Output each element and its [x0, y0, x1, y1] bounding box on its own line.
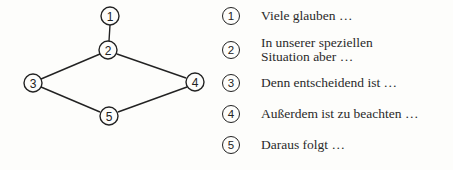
- legend-text: Viele glauben …: [261, 9, 352, 23]
- graph-node-4: 4: [186, 73, 204, 91]
- legend-item-5: 5 Daraus folgt …: [222, 136, 345, 154]
- node-label: 3: [30, 77, 37, 91]
- node-label: 1: [107, 10, 114, 24]
- legend: 1 Viele glauben … 2 In unserer spezielle…: [222, 0, 453, 170]
- graph-node-5: 5: [100, 107, 118, 125]
- legend-item-2: 2 In unserer speziellen Situation aber …: [222, 36, 373, 64]
- legend-number: 4: [222, 105, 240, 123]
- legend-number: 1: [222, 7, 240, 25]
- edge-2-4: [117, 54, 186, 78]
- legend-item-1: 1 Viele glauben …: [222, 7, 352, 25]
- legend-line: In unserer speziellen: [261, 36, 373, 50]
- node-label: 2: [105, 44, 112, 58]
- node-label: 4: [192, 76, 199, 90]
- legend-line: Außerdem ist zu beachten …: [261, 107, 418, 121]
- legend-item-4: 4 Außerdem ist zu beachten …: [222, 105, 418, 123]
- legend-text: Denn entscheidend ist …: [261, 76, 397, 90]
- edge-3-5: [41, 87, 100, 112]
- edge-2-3: [41, 54, 100, 79]
- legend-item-3: 3 Denn entscheidend ist …: [222, 74, 397, 92]
- legend-line: Daraus folgt …: [261, 138, 345, 152]
- legend-line: Situation aber …: [261, 50, 373, 64]
- legend-text: Außerdem ist zu beachten …: [261, 107, 418, 121]
- legend-line: Denn entscheidend ist …: [261, 76, 397, 90]
- node-label: 5: [106, 110, 113, 124]
- graph-node-1: 1: [101, 7, 119, 25]
- legend-line: Viele glauben …: [261, 9, 352, 23]
- legend-number: 3: [222, 74, 240, 92]
- legend-text: In unserer speziellen Situation aber …: [261, 36, 373, 64]
- graph-edges: [41, 25, 187, 112]
- graph-node-3: 3: [24, 74, 42, 92]
- legend-number: 2: [222, 41, 240, 59]
- edge-1-2: [109, 25, 110, 41]
- argument-graph: 1 2 3 4 5: [0, 0, 222, 170]
- legend-text: Daraus folgt …: [261, 138, 345, 152]
- legend-number: 5: [222, 136, 240, 154]
- edge-4-5: [118, 87, 187, 112]
- graph-node-2: 2: [99, 41, 117, 59]
